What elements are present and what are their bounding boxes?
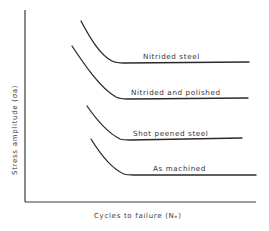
label-nitrided-steel: Nitrided steel [143,52,200,61]
curve-labels: Nitrided steel Nitrided and polished Sho… [131,52,221,173]
sn-curve-chart: Nitrided steel Nitrided and polished Sho… [0,0,269,231]
x-axis-label: Cycles to failure (Nₑ) [94,212,182,220]
label-as-machined: As machined [153,164,206,173]
label-nitrided-and-polished: Nitrided and polished [131,88,221,97]
y-axis-label: Stress amplitude (σa) [11,85,19,175]
axes [25,10,256,202]
label-shot-peened-steel: Shot peened steel [133,129,208,138]
curves [72,21,256,175]
